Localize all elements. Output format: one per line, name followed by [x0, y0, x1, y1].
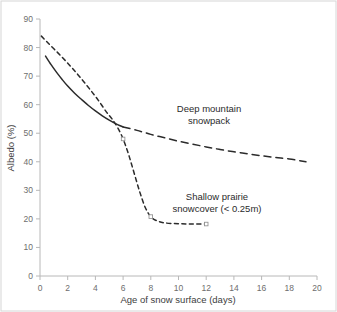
y-tick-label: 80 [24, 43, 34, 53]
x-tick-label: 16 [257, 283, 267, 293]
chart-background [0, 0, 337, 312]
x-tick-label: 6 [121, 283, 126, 293]
y-tick-label: 0 [28, 271, 33, 281]
albedo-vs-snow-age-chart: 0102030405060708090 02468101214161820 De… [0, 0, 337, 312]
y-tick-label: 30 [24, 185, 34, 195]
y-tick-label: 10 [24, 242, 34, 252]
shallow-prairie-label: Shallow prairiesnowcover (< 0.25m) [173, 191, 262, 214]
annotation-line: snowcover (< 0.25m) [173, 203, 262, 214]
x-tick-label: 10 [174, 283, 184, 293]
x-tick-label: 20 [312, 283, 322, 293]
annotation-line: Deep mountain [177, 103, 241, 114]
y-tick-label: 70 [24, 71, 34, 81]
x-tick-label: 2 [65, 283, 70, 293]
x-tick-label: 18 [285, 283, 295, 293]
annotation-line: Shallow prairie [186, 191, 248, 202]
y-axis-title: Albedo (%) [5, 125, 16, 172]
x-axis-title: Age of snow surface (days) [120, 294, 235, 305]
data-point-marker [149, 215, 153, 219]
x-tick-label: 14 [229, 283, 239, 293]
y-tick-label: 90 [24, 14, 34, 24]
data-point-marker [121, 137, 125, 141]
x-tick-label: 12 [201, 283, 211, 293]
y-tick-label: 40 [24, 157, 34, 167]
y-tick-label: 60 [24, 100, 34, 110]
x-tick-label: 4 [93, 283, 98, 293]
annotation-line: snowpack [188, 115, 230, 126]
x-tick-label: 0 [38, 283, 43, 293]
data-point-marker [204, 222, 208, 226]
chart-figure: 0102030405060708090 02468101214161820 De… [0, 0, 337, 312]
y-tick-label: 50 [24, 128, 34, 138]
y-tick-label: 20 [24, 214, 34, 224]
x-tick-label: 8 [148, 283, 153, 293]
